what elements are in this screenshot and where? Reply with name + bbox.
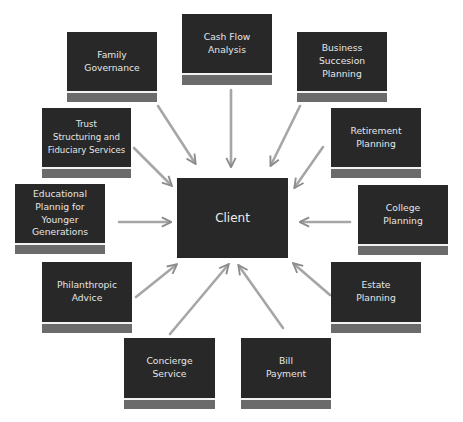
node-label: Philanthropic Advice <box>54 279 120 305</box>
node-label: Cash Flow Analysis <box>201 31 254 57</box>
node-label: Family Governance <box>81 49 142 75</box>
node-box: Estate Planning <box>331 262 421 322</box>
node-footer-bar <box>297 93 387 102</box>
node-business-succesion-planning: Business Succesion Planning <box>297 32 387 102</box>
node-family-governance: Family Governance <box>67 32 157 102</box>
node-footer-bar <box>42 324 132 333</box>
node-footer-bar <box>15 245 105 254</box>
node-retirement-planning: Retirement Planning <box>331 108 421 178</box>
node-box: Concierge Service <box>124 338 215 398</box>
node-trust-structuring: Trust Structuring and Fiduciary Services <box>42 108 131 178</box>
node-label: Concierge Service <box>143 355 195 381</box>
arrow-retirement-to-client <box>295 147 323 187</box>
node-box: Philanthropic Advice <box>42 262 132 322</box>
node-label: Trust Structuring and Fiduciary Services <box>45 118 129 156</box>
node-box: Educational Plannig for Younger Generati… <box>15 184 105 243</box>
node-footer-bar <box>42 169 131 178</box>
node-cash-flow-analysis: Cash Flow Analysis <box>182 14 272 85</box>
arrow-bill-payment-to-client <box>239 266 283 328</box>
node-box: Business Succesion Planning <box>297 32 387 91</box>
client-box: Client <box>177 178 288 258</box>
arrow-trust-to-client <box>134 148 171 185</box>
node-label: College Planning <box>380 202 426 228</box>
node-footer-bar <box>331 324 421 333</box>
node-box: Retirement Planning <box>331 108 421 167</box>
node-college-planning: College Planning <box>358 185 448 255</box>
node-box: Family Governance <box>67 32 157 91</box>
arrow-family-governance-to-client <box>158 106 195 163</box>
node-label: Educational Plannig for Younger Generati… <box>29 188 91 239</box>
node-philanthropic-advice: Philanthropic Advice <box>42 262 132 333</box>
node-footer-bar <box>241 400 331 409</box>
node-concierge-service: Concierge Service <box>124 338 215 409</box>
node-footer-bar <box>358 246 448 255</box>
node-educational-planning: Educational Plannig for Younger Generati… <box>15 184 105 254</box>
client-node: Client <box>177 178 288 258</box>
arrow-philanthropic-to-client <box>136 265 176 297</box>
node-footer-bar <box>124 400 215 409</box>
arrow-estate-to-client <box>294 264 330 295</box>
node-footer-bar <box>182 75 272 85</box>
node-box: College Planning <box>358 185 448 244</box>
node-footer-bar <box>67 93 157 102</box>
node-label: Retirement Planning <box>347 125 404 151</box>
arrow-concierge-to-client <box>170 265 228 334</box>
node-box: Cash Flow Analysis <box>182 14 272 73</box>
client-label: Client <box>212 212 253 225</box>
client-services-diagram: Client Cash Flow Analysis Family Governa… <box>0 0 463 422</box>
node-label: Bill Payment <box>263 355 309 381</box>
node-estate-planning: Estate Planning <box>331 262 421 333</box>
node-box: Bill Payment <box>241 338 331 398</box>
node-label: Business Succesion Planning <box>316 42 368 80</box>
node-label: Estate Planning <box>353 279 399 305</box>
arrow-business-succesion-to-client <box>271 106 300 165</box>
node-footer-bar <box>331 169 421 178</box>
node-bill-payment: Bill Payment <box>241 338 331 409</box>
node-box: Trust Structuring and Fiduciary Services <box>42 108 131 167</box>
